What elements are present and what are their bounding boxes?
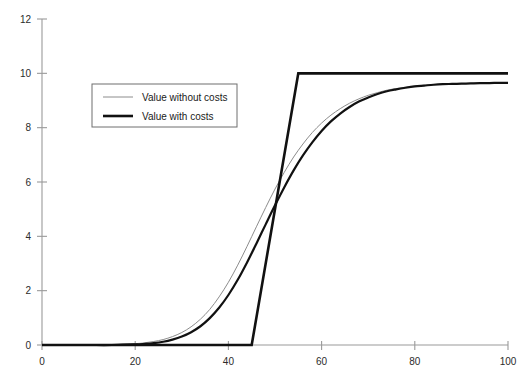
- x-axis-tick-label: 100: [500, 356, 517, 367]
- chart-plot: 024681012020406080100 Value without cost…: [0, 0, 523, 387]
- y-axis-tick-label: 4: [25, 231, 31, 242]
- x-axis-tick-label: 0: [39, 356, 45, 367]
- x-axis-tick-label: 60: [316, 356, 328, 367]
- x-axis-tick-label: 80: [409, 356, 421, 367]
- legend-label-1: Value with costs: [142, 111, 214, 122]
- chart-container: 024681012020406080100 Value without cost…: [0, 0, 523, 387]
- y-axis-tick-label: 0: [25, 340, 31, 351]
- y-axis-tick-label: 10: [20, 68, 32, 79]
- axis-layer: 024681012020406080100: [20, 14, 517, 367]
- legend-label-0: Value without costs: [142, 92, 227, 103]
- legend-layer: Value without costsValue with costs: [92, 84, 237, 127]
- y-axis-tick-label: 8: [25, 122, 31, 133]
- x-axis-tick-label: 40: [223, 356, 235, 367]
- y-axis-tick-label: 2: [25, 285, 31, 296]
- x-axis-tick-label: 20: [130, 356, 142, 367]
- y-axis-tick-label: 6: [25, 177, 31, 188]
- y-axis-tick-label: 12: [20, 14, 32, 25]
